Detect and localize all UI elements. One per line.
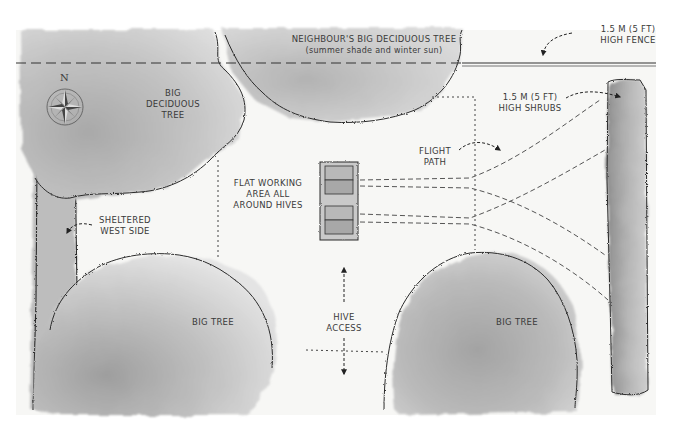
fence-label-line1: 1.5 M (5 FT)	[588, 24, 668, 35]
hive-1-box-top	[325, 166, 353, 180]
sheltered-west-label: SHELTERED WEST SIDE	[92, 215, 158, 237]
flight-path-label: FLIGHT PATH	[410, 146, 460, 168]
big-deciduous-line3: TREE	[138, 110, 208, 121]
fence-label: 1.5 M (5 FT) HIGH FENCE	[588, 24, 668, 46]
hive-access-label: HIVE ACCESS	[318, 312, 370, 334]
sheltered-line1: SHELTERED	[92, 215, 158, 226]
big-deciduous-tree-label: BIG DECIDUOUS TREE	[138, 88, 208, 121]
shrubs-label: 1.5 M (5 FT) HIGH SHRUBS	[490, 92, 570, 114]
big-tree-right-label: BIG TREE	[492, 317, 542, 328]
hive-access-line2: ACCESS	[318, 323, 370, 334]
north-label: N	[60, 72, 69, 83]
shrubs-label-line2: HIGH SHRUBS	[490, 103, 570, 114]
sheltered-line2: WEST SIDE	[92, 226, 158, 237]
hive-2-box-top	[325, 206, 353, 220]
flight-path-line2: PATH	[410, 157, 460, 168]
working-area-line2: AREA ALL	[228, 189, 308, 200]
neighbour-tree-label: NEIGHBOUR'S BIG DECIDUOUS TREE (summer s…	[254, 34, 494, 56]
fence-label-line2: HIGH FENCE	[588, 35, 668, 46]
compass-rose-icon	[47, 89, 83, 125]
hive-2-box-bottom	[325, 220, 353, 234]
hive-1-box-bottom	[325, 180, 353, 194]
neighbour-tree-title: NEIGHBOUR'S BIG DECIDUOUS TREE	[254, 34, 494, 45]
east-shrubs	[607, 80, 648, 395]
garden-plan-diagram: N NEIGHBOUR'S BIG DECIDUOUS TREE (summer…	[0, 0, 673, 432]
working-area-label: FLAT WORKING AREA ALL AROUND HIVES	[228, 178, 308, 211]
working-area-line3: AROUND HIVES	[228, 200, 308, 211]
working-area-line1: FLAT WORKING	[228, 178, 308, 189]
hives	[320, 162, 358, 240]
shrubs-label-line1: 1.5 M (5 FT)	[490, 92, 570, 103]
neighbour-tree-note: (summer shade and winter sun)	[254, 45, 494, 56]
flight-path-line1: FLIGHT	[410, 146, 460, 157]
big-deciduous-line2: DECIDUOUS	[138, 99, 208, 110]
hive-access-line1: HIVE	[318, 312, 370, 323]
big-tree-left-label: BIG TREE	[188, 317, 238, 328]
big-deciduous-line1: BIG	[138, 88, 208, 99]
